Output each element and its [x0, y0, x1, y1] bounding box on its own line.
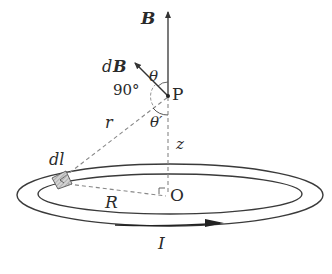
label-r: r	[105, 113, 114, 132]
current-arrowhead-icon	[205, 219, 224, 227]
label-origin-O: O	[170, 185, 184, 205]
label-dB-d: d	[102, 57, 112, 76]
right-angle-mark-O	[159, 188, 165, 194]
point-P-dot	[166, 94, 170, 98]
r-line	[64, 97, 168, 177]
label-dl: dl	[49, 150, 64, 169]
label-point-P: P	[172, 84, 183, 104]
label-current-I: I	[157, 233, 165, 253]
theta-arc	[158, 82, 168, 86]
current-element-dl	[52, 171, 72, 189]
label-90-degrees: 90°	[113, 81, 140, 99]
label-theta: θ	[149, 67, 158, 85]
loop-field-diagram: B d B θ 90° P r θ′ z dl R O I	[0, 0, 332, 274]
label-dB-vec: B	[112, 57, 127, 76]
label-R: R	[104, 192, 118, 212]
label-B: B	[140, 8, 155, 28]
label-z: z	[175, 135, 184, 153]
diagram-canvas: B d B θ 90° P r θ′ z dl R O I	[0, 0, 332, 274]
right-angle-arc-90	[151, 84, 156, 108]
label-theta-prime: θ′	[150, 113, 163, 131]
